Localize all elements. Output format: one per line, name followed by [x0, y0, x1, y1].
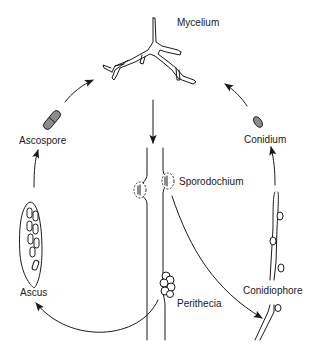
ascus-illustration	[19, 202, 42, 288]
life-cycle-diagram	[0, 0, 325, 355]
label-mycelium: Mycelium	[177, 18, 219, 28]
label-conidiophore: Conidiophore	[243, 286, 303, 296]
label-sporodochium: Sporodochium	[179, 177, 243, 187]
label-conidium: Conidium	[244, 135, 286, 145]
conidium-illustration	[252, 115, 265, 129]
perithecia-illustration	[160, 272, 175, 298]
ascospore-illustration	[42, 109, 62, 131]
conidiophore-illustration	[255, 192, 284, 340]
label-perithecia: Perithecia	[177, 299, 221, 309]
cycle-arrows	[34, 80, 275, 332]
label-ascospore: Ascospore	[19, 136, 66, 146]
sporodochium-illustration	[134, 173, 174, 198]
label-ascus: Ascus	[20, 288, 47, 298]
